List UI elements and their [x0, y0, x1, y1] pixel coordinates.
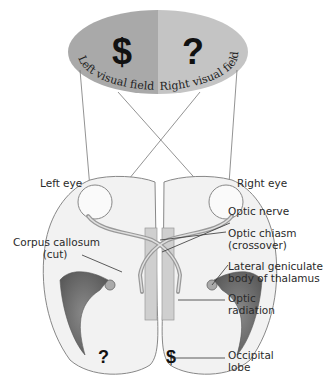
optic-chiasm-label: Optic chiasm	[228, 227, 297, 239]
left-field-symbol: $	[112, 31, 132, 72]
right-eye-label: Right eye	[237, 177, 287, 189]
optic-chiasm-sublabel: (crossover)	[228, 239, 287, 251]
occipital-lobe-label: Occipital	[228, 349, 274, 361]
occipital-lobe-sublabel: lobe	[228, 361, 250, 373]
right-cortex-symbol: $	[166, 347, 176, 367]
corpus-callosum-label: Corpus callosum	[13, 236, 97, 248]
optic-nerve-label: Optic nerve	[228, 205, 289, 217]
corpus-callosum	[145, 228, 174, 320]
visual-field-ellipse	[60, 0, 258, 100]
left-eye-label: Left eye	[40, 177, 82, 189]
eyes	[78, 185, 243, 219]
corpus-callosum-sublabel: (cut)	[13, 248, 97, 260]
left-cortex-symbol: ?	[98, 347, 109, 367]
visual-pathway-diagram: $ ? Left visual field Right visual field	[0, 0, 324, 384]
lgn-label: Lateral geniculate	[228, 260, 323, 272]
lgn-sublabel: body of thalamus	[228, 272, 320, 284]
optic-radiation-sublabel: radiation	[228, 304, 275, 316]
right-field-symbol: ?	[182, 31, 204, 72]
left-eyeball	[78, 185, 112, 219]
optic-radiation-label: Optic	[228, 292, 256, 304]
